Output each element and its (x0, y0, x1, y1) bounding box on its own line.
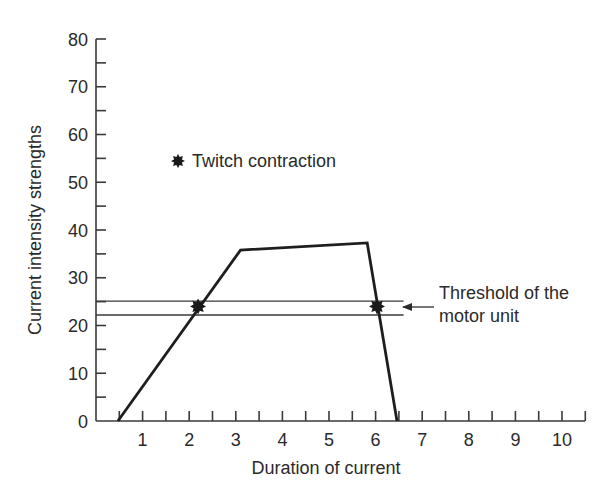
annotation-line-2: motor unit (439, 306, 519, 326)
twitch-star-icon (369, 298, 385, 314)
legend: Twitch contraction (171, 151, 336, 171)
x-tick-label: 2 (184, 430, 194, 450)
x-axis-title: Duration of current (251, 458, 400, 478)
y-tick-label: 0 (78, 412, 88, 432)
y-axis-tick-labels: 01020304050607080 (68, 30, 88, 432)
x-tick-label: 9 (510, 430, 520, 450)
annotation-line-1: Threshold of the (439, 283, 569, 303)
y-tick-label: 60 (68, 125, 88, 145)
star-icon (171, 154, 185, 168)
x-tick-label: 1 (138, 430, 148, 450)
x-tick-label: 4 (277, 430, 287, 450)
legend-label: Twitch contraction (192, 151, 336, 171)
y-tick-label: 50 (68, 173, 88, 193)
chart: 01020304050607080 12345678910 Twitch con… (0, 0, 612, 496)
axes (96, 39, 585, 421)
y-axis-ticks (96, 39, 106, 397)
x-tick-label: 10 (552, 430, 572, 450)
threshold-lines (96, 301, 404, 315)
y-tick-label: 20 (68, 316, 88, 336)
y-tick-label: 40 (68, 221, 88, 241)
y-tick-label: 10 (68, 364, 88, 384)
y-tick-label: 30 (68, 268, 88, 288)
y-tick-label: 80 (68, 30, 88, 50)
twitch-star-icon (190, 298, 206, 314)
x-tick-label: 6 (371, 430, 381, 450)
y-tick-label: 70 (68, 77, 88, 97)
x-tick-label: 5 (324, 430, 334, 450)
x-axis-tick-labels: 12345678910 (138, 430, 572, 450)
x-tick-label: 7 (417, 430, 427, 450)
x-tick-label: 8 (464, 430, 474, 450)
x-axis-ticks (119, 411, 585, 421)
x-tick-label: 3 (231, 430, 241, 450)
current-pulse-line (118, 243, 397, 421)
y-axis-title: Current intensity strengths (25, 125, 45, 335)
threshold-annotation: Threshold of the motor unit (403, 283, 569, 326)
